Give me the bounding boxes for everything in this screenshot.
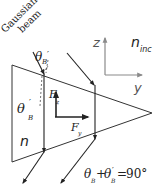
- theta-b-top-label: θ B ′: [35, 50, 49, 66]
- theta-b-prime-label: θ B ′: [17, 98, 33, 122]
- axis-z-label: z: [92, 35, 101, 50]
- axis-y-label: y: [133, 80, 142, 95]
- svg-text:′: ′: [112, 165, 114, 174]
- svg-text:y: y: [77, 129, 82, 137]
- svg-text:inc: inc: [140, 45, 152, 54]
- svg-text:90°: 90°: [126, 167, 147, 181]
- refractive-index-prism-label: n: [20, 133, 29, 149]
- gaussian-beam-label: Gaussian beam: [0, 0, 48, 43]
- svg-text:z: z: [55, 98, 60, 105]
- svg-text:B: B: [27, 114, 33, 122]
- refractive-index-incident-label: n inc: [131, 34, 152, 54]
- beam-2: [61, 53, 95, 183]
- prism-beam-diagram: Gaussian beam θ B ′ θ B ′ n F z F y z y …: [0, 0, 161, 190]
- beam-1: [23, 52, 44, 183]
- svg-text:θ: θ: [17, 101, 25, 116]
- svg-text:n: n: [131, 34, 140, 50]
- brewster-equation: θ B + θ B ′ = 90°: [84, 165, 147, 184]
- svg-text:B: B: [110, 177, 116, 184]
- svg-text:′: ′: [47, 50, 49, 60]
- force-axes: F z F y: [48, 88, 88, 137]
- svg-text:′: ′: [29, 98, 31, 108]
